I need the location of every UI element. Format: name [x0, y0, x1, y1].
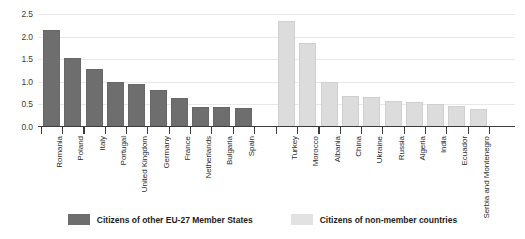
x-axis-tick-mark — [404, 127, 405, 134]
x-axis-tick-mark — [169, 127, 170, 134]
bar-slot — [448, 14, 465, 127]
bar — [406, 102, 423, 127]
legend-item: Citizens of non-member countries — [291, 214, 457, 225]
bar-slot — [43, 14, 60, 127]
x-axis-category-label: France — [183, 136, 192, 161]
x-axis-category-label: India — [439, 136, 448, 153]
x-axis-category-label: China — [354, 136, 363, 157]
legend-color-swatch — [68, 214, 90, 225]
x-axis-category-label: Albania — [333, 136, 342, 162]
bar-slot — [128, 14, 145, 127]
bar — [213, 107, 230, 127]
bar — [299, 43, 316, 127]
bar — [128, 84, 145, 127]
bar — [192, 107, 209, 127]
bar-slot — [235, 14, 252, 127]
x-axis-tick-mark — [361, 127, 362, 134]
bar-slot — [213, 14, 230, 127]
bar-slot — [342, 14, 359, 127]
x-axis-tick-mark — [105, 127, 106, 134]
x-axis-category-label: Italy — [98, 136, 107, 150]
x-axis-category-label: Spain — [247, 136, 256, 156]
bar-series-container — [38, 14, 515, 127]
bar — [86, 69, 103, 127]
x-axis-tick-mark — [468, 127, 469, 134]
bar-slot — [321, 14, 338, 127]
x-axis-tick-mark — [318, 127, 319, 134]
bar — [363, 97, 380, 127]
x-axis-category-label: Turkey — [290, 136, 299, 160]
x-axis-category-label: United Kingdom — [140, 136, 149, 192]
x-axis-tick-mark — [382, 127, 383, 134]
x-axis-category-label: Morocco — [311, 136, 320, 166]
bar-chart: 0.00.51.01.52.02.5 RomaniaPolandItalyPor… — [0, 0, 525, 239]
x-axis-tick-mark — [489, 127, 490, 134]
bar — [470, 109, 487, 127]
x-axis-category-label: Serbia and Montenegro — [482, 136, 491, 219]
x-axis-category-label: Netherlands — [204, 136, 213, 179]
x-axis-category-label: Bulgaria — [225, 136, 234, 165]
bar — [278, 21, 295, 127]
legend-color-swatch — [291, 214, 313, 225]
x-axis-category-label: Poland — [76, 136, 85, 161]
legend-label: Citizens of non-member countries — [320, 215, 457, 225]
bar — [64, 58, 81, 127]
bar-slot — [150, 14, 167, 127]
bar — [235, 108, 252, 127]
x-axis-tick-mark — [446, 127, 447, 134]
bar — [107, 82, 124, 127]
y-axis-tick-label: 2.0 — [21, 32, 33, 42]
bar — [171, 98, 188, 127]
x-axis-tick-mark — [147, 127, 148, 134]
x-axis-tick-mark — [254, 127, 255, 134]
x-axis-category-label: Ecuador — [460, 136, 469, 165]
bar — [321, 82, 338, 127]
chart-legend: Citizens of other EU-27 Member StatesCit… — [0, 214, 525, 225]
bar — [427, 104, 444, 127]
x-axis-tick-mark — [41, 127, 42, 134]
plot-area: 0.00.51.01.52.02.5 — [38, 14, 515, 127]
bar-slot — [192, 14, 209, 127]
x-axis-tick-mark — [211, 127, 212, 134]
x-axis-tick-mark — [276, 127, 277, 134]
legend-label: Citizens of other EU-27 Member States — [97, 215, 253, 225]
bar-slot — [385, 14, 402, 127]
bar-slot — [363, 14, 380, 127]
bar-slot — [107, 14, 124, 127]
bar-slot — [278, 14, 295, 127]
y-axis-tick-label: 0.5 — [21, 99, 33, 109]
x-axis-tick-mark — [62, 127, 63, 134]
x-axis-category-label: Algeria — [418, 136, 427, 161]
x-axis-tick-mark — [190, 127, 191, 134]
bar-slot — [86, 14, 103, 127]
bar-slot — [299, 14, 316, 127]
x-axis-tick-mark — [126, 127, 127, 134]
x-axis-tick-mark — [297, 127, 298, 134]
x-axis-category-label: Ukraine — [375, 136, 384, 163]
x-axis-category-label: Romania — [55, 136, 64, 168]
x-axis-category-label: Germany — [162, 136, 171, 169]
bar-slot — [64, 14, 81, 127]
bar — [448, 106, 465, 127]
bar-slot — [406, 14, 423, 127]
y-axis-tick-label: 1.5 — [21, 54, 33, 64]
x-axis-tick-mark — [233, 127, 234, 134]
bar — [342, 96, 359, 127]
x-axis-tick-mark — [83, 127, 84, 134]
bar — [385, 101, 402, 127]
bar — [43, 30, 60, 127]
x-axis-category-label: Portugal — [119, 136, 128, 165]
y-axis-tick-label: 0.0 — [21, 122, 33, 132]
bar-slot — [427, 14, 444, 127]
bar-slot — [171, 14, 188, 127]
bar — [150, 90, 167, 127]
x-axis-tick-mark — [340, 127, 341, 134]
y-axis-tick-label: 1.0 — [21, 77, 33, 87]
y-axis-tick-label: 2.5 — [21, 9, 33, 19]
x-axis-category-label: Russia — [397, 136, 406, 160]
x-axis-tick-mark — [425, 127, 426, 134]
bar-slot — [470, 14, 487, 127]
legend-item: Citizens of other EU-27 Member States — [68, 214, 253, 225]
